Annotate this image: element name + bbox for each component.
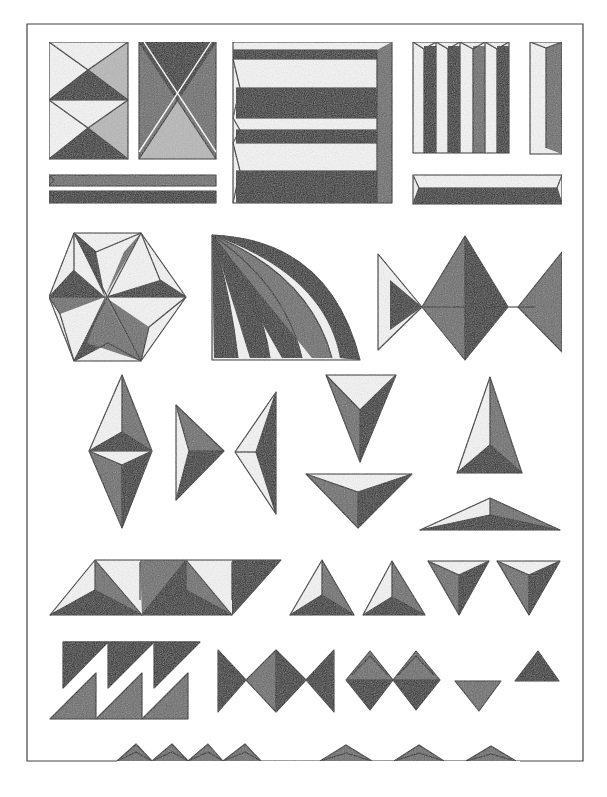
bowtie-band [218,650,334,712]
right-triangle-pair [176,392,276,514]
single-vertical-bar [530,42,562,154]
inverted-triangle [326,375,396,462]
parallelogram-triangle-band [50,560,281,615]
vertical-double-diamond [89,375,152,528]
vertical-fluted-block [413,42,509,153]
quarter-fan [212,235,360,360]
small-down-triangle [455,681,501,711]
tall-triangle [457,377,522,473]
square-x-pyramid [139,42,216,159]
bowtie-diamonds [378,236,562,360]
horizontal-bar [413,175,562,204]
flat-triangle [420,498,560,530]
flat-inverted-triangle [306,474,412,528]
framed-panel-bars [233,42,392,203]
ornament-plate [0,0,607,797]
serrated-border-edge [117,744,520,761]
sawtooth-zigzag [50,642,200,719]
upward-triangle-pair [290,560,425,615]
small-up-triangle [515,651,559,681]
double-horizontal-bars [49,175,216,203]
square-hourglass [49,42,128,159]
downward-triangle-pair [428,561,560,615]
hexagon-star [49,233,186,361]
diamond-pair [346,651,440,710]
